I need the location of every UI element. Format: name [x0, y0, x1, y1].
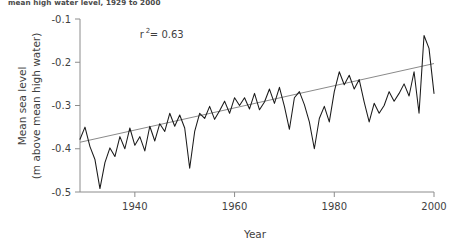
y-tick-label: -0.3 — [51, 100, 71, 111]
y-tick-label: -0.5 — [51, 187, 71, 198]
axes — [80, 19, 434, 192]
x-tick-label: 2000 — [421, 201, 446, 212]
y-tick-label: -0.1 — [51, 14, 71, 25]
figure: mean high water level, 1929 to 2000 -0.1… — [0, 0, 455, 250]
x-axis-title: Year — [243, 228, 267, 240]
y-axis-title-line1: Mean sea level — [16, 67, 28, 146]
y-tick-label: -0.4 — [51, 143, 71, 154]
figure-caption: mean high water level, 1929 to 2000 — [8, 0, 161, 7]
r-squared-symbol: r — [140, 29, 145, 40]
y-axis-title-line2: (m above mean high water) — [30, 33, 42, 180]
x-axis-ticks: 1940196019802000 — [122, 192, 447, 212]
y-axis-title: Mean sea level (m above mean high water) — [16, 33, 42, 180]
x-tick-label: 1940 — [122, 201, 147, 212]
sea-level-series-line — [80, 35, 434, 188]
sea-level-line-chart: -0.1-0.2-0.3-0.4-0.5 1940196019802000 r … — [0, 0, 455, 250]
y-axis-ticks: -0.1-0.2-0.3-0.4-0.5 — [51, 14, 80, 198]
y-tick-label: -0.2 — [51, 57, 71, 68]
r-squared-value: = 0.63 — [150, 29, 184, 40]
r-squared-annotation: r 2 = 0.63 — [140, 27, 184, 40]
x-tick-label: 1960 — [222, 201, 247, 212]
x-tick-label: 1980 — [322, 201, 347, 212]
